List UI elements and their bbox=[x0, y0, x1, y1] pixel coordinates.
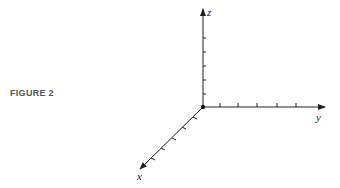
origin-dot bbox=[201, 105, 205, 109]
z-axis-label: z bbox=[206, 6, 212, 18]
x-axis: x bbox=[136, 107, 203, 182]
x-axis-label: x bbox=[136, 170, 142, 182]
y-axis: y bbox=[203, 103, 325, 123]
y-axis-label: y bbox=[315, 111, 321, 123]
coordinate-axes-diagram: z y x bbox=[0, 0, 340, 188]
z-axis: z bbox=[203, 6, 212, 107]
